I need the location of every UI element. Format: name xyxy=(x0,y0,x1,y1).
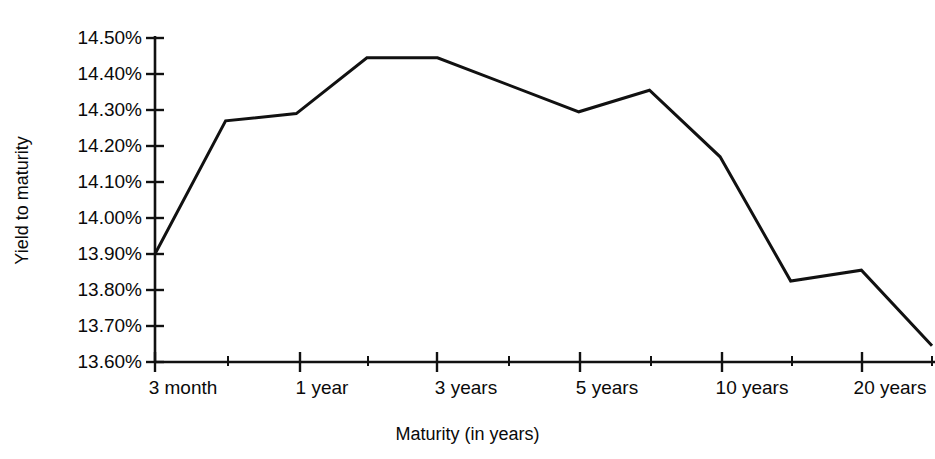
x-tick-label-3-month: 3 month xyxy=(103,378,263,398)
x-tick-label-5-years: 5 years xyxy=(527,378,687,398)
x-tick-label-1-year: 1 year xyxy=(242,378,402,398)
x-tick-label-3-years: 3 years xyxy=(386,378,546,398)
yield-curve-chart: Yield to maturity 14.50% 14.40% 14.30% 1… xyxy=(0,0,935,459)
series-line-yield-curve xyxy=(155,58,932,346)
x-tick-label-20-years: 20 years xyxy=(810,378,935,398)
x-tick-label-10-years: 10 years xyxy=(672,378,832,398)
x-axis-title: Maturity (in years) xyxy=(0,424,935,445)
